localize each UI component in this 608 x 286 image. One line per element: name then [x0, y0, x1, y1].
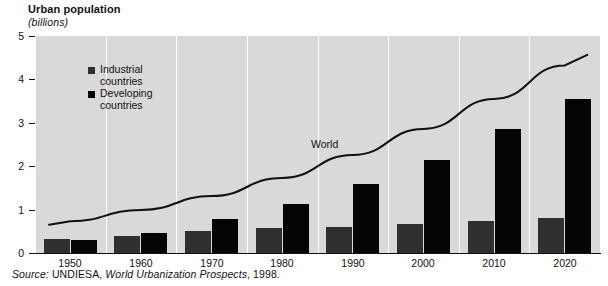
legend-label-developing-line1: Developing — [100, 87, 153, 99]
world-line-label: World — [311, 139, 338, 150]
legend-label-developing-line2: countries — [100, 100, 153, 112]
y-axis-label: 1 — [0, 205, 24, 215]
legend-label-industrial-line1: Industrial — [100, 63, 143, 75]
legend-label-developing: Developing countries — [100, 88, 153, 111]
legend-label-industrial: Industrial countries — [100, 64, 143, 87]
legend-item-developing: Developing countries — [88, 88, 153, 111]
source-note: Source: UNDIESA, World Urbanization Pros… — [12, 268, 280, 280]
legend-swatch-icon-industrial — [88, 67, 95, 74]
y-axis-label: 3 — [0, 118, 24, 128]
source-year: , 1998. — [247, 268, 280, 280]
chart-title-block: Urban population (billions) — [28, 3, 121, 28]
y-axis-label: 5 — [0, 31, 24, 41]
legend-label-industrial-line2: countries — [100, 76, 143, 88]
y-axis-label: 2 — [0, 161, 24, 171]
y-axis-label: 4 — [0, 74, 24, 84]
x-axis-line — [35, 253, 601, 254]
source-work-title: World Urbanization Prospects — [105, 268, 247, 280]
x-axis-label: 2000 — [398, 258, 448, 269]
page-title: Urban population — [28, 3, 121, 16]
legend-swatch-icon-developing — [88, 91, 95, 98]
x-axis-label: 2010 — [469, 258, 519, 269]
source-prefix: Source: — [12, 268, 49, 280]
y-axis-label: 0 — [0, 248, 24, 258]
chart-legend: Industrial countries Developing countrie… — [88, 64, 153, 112]
legend-item-industrial: Industrial countries — [88, 64, 153, 87]
source-publisher: UNDIESA, — [52, 268, 102, 280]
x-axis-label: 1990 — [328, 258, 378, 269]
y-axis-tick — [29, 253, 35, 254]
chart-container: Urban population (billions) 012345195019… — [0, 0, 608, 286]
x-axis-label: 2020 — [540, 258, 590, 269]
chart-subtitle: (billions) — [28, 16, 121, 28]
